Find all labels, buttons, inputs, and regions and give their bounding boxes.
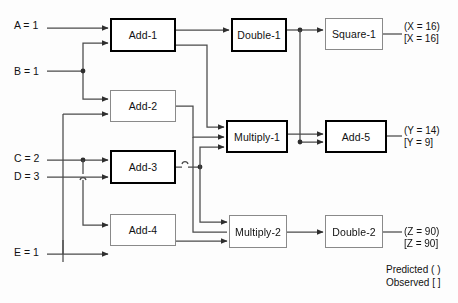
node-label-add-1: Add-1 xyxy=(129,29,158,41)
node-square-1[interactable]: Square-1 xyxy=(325,18,383,50)
node-label-add-4: Add-4 xyxy=(129,224,158,236)
node-label-add-5: Add-5 xyxy=(342,131,371,143)
diagram-canvas: A = 1 B = 1 C = 2 D = 3 E = 1 Add-1 Add-… xyxy=(0,0,458,303)
wire-hop-c-over-d xyxy=(80,178,86,180)
output-y-observed: [Y = 9] xyxy=(404,137,440,149)
output-x-predicted: (X = 16) xyxy=(404,21,440,33)
node-double-1[interactable]: Double-1 xyxy=(231,18,287,52)
input-label-c: C = 2 xyxy=(14,152,39,164)
wire-add3-to-multiply2 xyxy=(200,167,227,222)
node-label-add-3: Add-3 xyxy=(129,161,158,173)
junction-dot-b xyxy=(81,69,86,74)
output-group-x: (X = 16) [X = 16] xyxy=(404,21,440,45)
legend: Predicted ( ) Observed [ ] xyxy=(386,264,440,289)
output-group-y: (Y = 14) [Y = 9] xyxy=(404,125,440,149)
wire-double1-to-add5 xyxy=(300,30,323,142)
wire-b-to-add2 xyxy=(83,71,108,99)
node-multiply-1[interactable]: Multiply-1 xyxy=(226,120,288,153)
node-label-multiply-2: Multiply-2 xyxy=(235,226,281,238)
node-double-2[interactable]: Double-2 xyxy=(325,215,383,248)
wire-b-to-add1 xyxy=(83,43,108,71)
input-label-e: E = 1 xyxy=(14,246,39,258)
junction-dot-add5in xyxy=(298,140,303,145)
node-label-double-1: Double-1 xyxy=(237,29,280,41)
wire-add3-to-multiply1 xyxy=(200,147,224,167)
wire-hop-add3 xyxy=(182,162,188,164)
node-add-3[interactable]: Add-3 xyxy=(110,150,176,184)
wire-add2-to-multiply1 xyxy=(176,106,224,137)
node-label-add-2: Add-2 xyxy=(129,100,158,112)
node-add-4[interactable]: Add-4 xyxy=(110,214,176,246)
node-add-2[interactable]: Add-2 xyxy=(110,90,176,122)
output-z-observed: [Z = 90] xyxy=(404,238,439,250)
node-label-square-1: Square-1 xyxy=(332,28,376,40)
wire-c-to-add4 xyxy=(83,160,108,225)
input-label-b: B = 1 xyxy=(14,65,39,77)
wire-add2-to-multiply2 xyxy=(193,137,227,232)
input-label-d: D = 3 xyxy=(14,170,39,182)
output-z-predicted: (Z = 90) xyxy=(404,226,439,238)
node-label-multiply-1: Multiply-1 xyxy=(234,131,280,143)
wire-add1-to-multiply1 xyxy=(176,45,224,127)
output-y-predicted: (Y = 14) xyxy=(404,125,440,137)
node-label-double-2: Double-2 xyxy=(332,226,375,238)
input-label-a: A = 1 xyxy=(14,19,38,31)
legend-observed: Observed [ ] xyxy=(386,277,440,290)
node-add-5[interactable]: Add-5 xyxy=(325,120,387,153)
output-group-z: (Z = 90) [Z = 90] xyxy=(404,226,439,250)
node-add-1[interactable]: Add-1 xyxy=(110,18,176,52)
legend-predicted: Predicted ( ) xyxy=(386,264,440,277)
output-x-observed: [X = 16] xyxy=(404,33,440,45)
node-multiply-2[interactable]: Multiply-2 xyxy=(229,215,287,248)
